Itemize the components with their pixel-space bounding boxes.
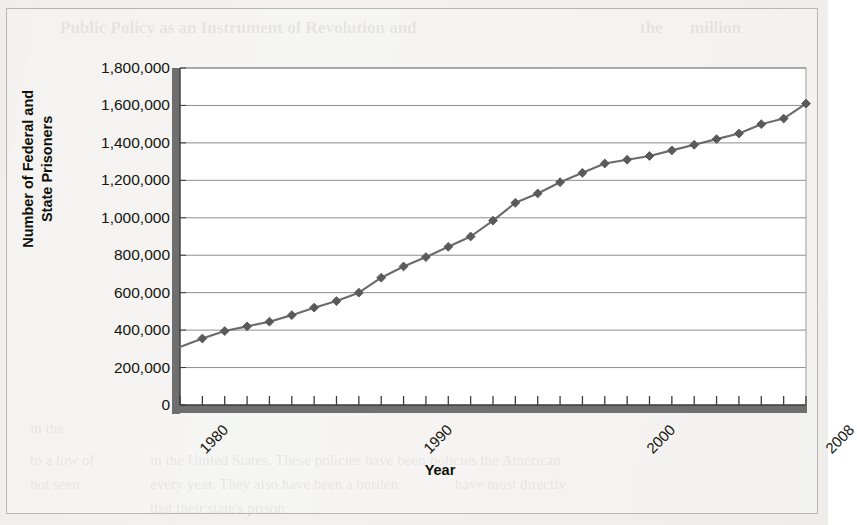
y-axis-tick-label: 1,400,000: [60, 135, 170, 151]
y-axis-tick-label: 1,600,000: [60, 97, 170, 113]
y-axis-tick-label: 1,800,000: [60, 60, 170, 76]
y-axis-tick-label: 0: [60, 397, 170, 413]
y-axis-title: Number of Federal andState Prisoners: [19, 69, 57, 269]
x-axis-title: Year: [0, 462, 828, 478]
y-axis-spine: [172, 68, 180, 414]
y-axis-title-line: Number of Federal and: [19, 69, 38, 269]
y-axis-tick-labels: 1,800,0001,600,0001,400,0001,200,0001,00…: [52, 0, 170, 525]
x-axis-spine: [172, 405, 807, 413]
plot-area-background: [180, 68, 806, 405]
y-axis-tick-label: 200,000: [60, 360, 170, 376]
y-axis-tick-label: 800,000: [60, 247, 170, 263]
y-axis-tick-label: 1,200,000: [60, 172, 170, 188]
y-axis-tick-label: 1,000,000: [60, 210, 170, 226]
y-axis-tick-label: 600,000: [60, 285, 170, 301]
y-axis-tick-label: 400,000: [60, 322, 170, 338]
y-axis-title-line: State Prisoners: [38, 69, 57, 269]
